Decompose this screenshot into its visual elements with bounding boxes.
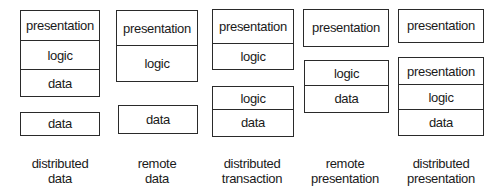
bottom-stack: logic data bbox=[212, 86, 294, 137]
caption-line-1: remote bbox=[102, 156, 212, 171]
layer-data: data bbox=[119, 106, 197, 132]
bottom-stack: data bbox=[118, 105, 198, 134]
layer-data: data bbox=[399, 109, 483, 134]
layer-logic: logic bbox=[213, 43, 293, 68]
caption-line-1: distributed bbox=[386, 156, 496, 171]
layer-presentation: presentation bbox=[304, 10, 388, 45]
layer-data: data bbox=[213, 109, 293, 135]
bottom-stack: presentation logic data bbox=[398, 57, 484, 136]
layer-logic: logic bbox=[305, 61, 388, 85]
caption-line-1: remote bbox=[290, 156, 400, 171]
bottom-stack: data bbox=[20, 112, 100, 136]
model-caption: distributed data bbox=[5, 156, 115, 186]
layer-logic: logic bbox=[213, 87, 293, 109]
layer-data: data bbox=[305, 85, 388, 111]
layer-data: data bbox=[21, 113, 99, 134]
layer-presentation: presentation bbox=[21, 11, 99, 40]
distribution-models-diagram: presentation logic data data distributed… bbox=[0, 0, 499, 195]
layer-presentation: presentation bbox=[117, 11, 197, 45]
top-stack: presentation bbox=[398, 9, 484, 43]
top-stack: presentation logic bbox=[116, 10, 198, 82]
bottom-stack: logic data bbox=[304, 60, 389, 113]
top-stack: presentation logic bbox=[212, 9, 294, 70]
model-caption: distributed presentation bbox=[386, 156, 496, 186]
caption-line-2: presentation bbox=[386, 171, 496, 186]
layer-presentation: presentation bbox=[399, 10, 483, 41]
caption-line-2: data bbox=[102, 171, 212, 186]
top-stack: presentation bbox=[303, 9, 389, 47]
layer-presentation: presentation bbox=[213, 10, 293, 43]
top-stack: presentation logic data bbox=[20, 10, 100, 97]
layer-logic: logic bbox=[21, 40, 99, 69]
model-caption: remote presentation bbox=[290, 156, 400, 186]
layer-data: data bbox=[21, 69, 99, 96]
layer-presentation: presentation bbox=[399, 58, 483, 84]
layer-logic: logic bbox=[399, 84, 483, 109]
caption-line-2: presentation bbox=[290, 171, 400, 186]
caption-line-2: data bbox=[5, 171, 115, 186]
layer-logic: logic bbox=[117, 45, 197, 80]
model-caption: remote data bbox=[102, 156, 212, 186]
caption-line-1: distributed bbox=[5, 156, 115, 171]
